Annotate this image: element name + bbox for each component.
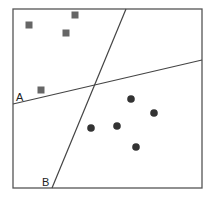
decision-line-a <box>13 60 202 104</box>
circle-point <box>113 122 121 130</box>
circle-point <box>150 109 158 117</box>
classifier-diagram: AB <box>0 0 211 200</box>
circle-point <box>127 95 135 103</box>
square-point <box>26 22 33 29</box>
circle-point <box>87 124 95 132</box>
square-point <box>63 30 70 37</box>
circle-point <box>132 143 140 151</box>
line-label-b: B <box>42 176 49 188</box>
square-point <box>38 87 45 94</box>
plot-frame <box>13 9 202 188</box>
line-label-a: A <box>16 91 24 103</box>
square-point <box>72 12 79 19</box>
